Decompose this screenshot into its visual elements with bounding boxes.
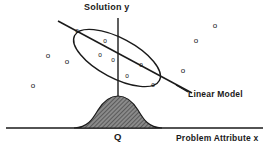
figure-container: o o o o o o o o o o o o o Solution y Lin… (0, 0, 269, 155)
query-point-label: Q (114, 131, 122, 142)
linear-model-label: Linear Model (188, 89, 243, 99)
gaussian-distribution-curve (74, 96, 162, 128)
neighborhood-ellipse (65, 18, 169, 98)
linear-model-leader-line (176, 85, 188, 92)
y-axis-title: Solution y (84, 2, 130, 12)
diagram-canvas (0, 0, 269, 155)
x-axis-title: Problem Attribute x (176, 133, 258, 143)
